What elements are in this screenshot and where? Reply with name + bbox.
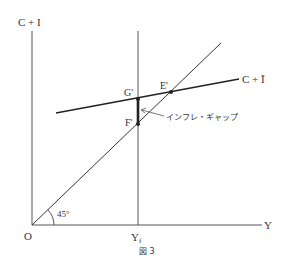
- aggregate-demand-label: C + Ī: [242, 73, 265, 85]
- aggregate-demand-line: [56, 79, 239, 113]
- diagram-canvas: C + I Y O 45° Yf C + Ī G' E' F' インフレ・ギャッ…: [0, 0, 284, 273]
- 45-degree-line: [32, 43, 221, 225]
- angle-label: 45°: [57, 209, 70, 219]
- full-employment-label: Yf: [131, 231, 142, 245]
- point-g-label: G': [124, 87, 133, 98]
- x-axis-label: Y: [264, 219, 272, 231]
- figure-caption: 図 3: [139, 247, 155, 256]
- angle-arc: [48, 210, 54, 225]
- point-e-label: E': [160, 80, 168, 91]
- point-f-label: F': [125, 117, 133, 128]
- point-e: [169, 90, 173, 94]
- y-axis-label: C + I: [18, 16, 41, 28]
- inflation-gap-diagram: C + I Y O 45° Yf C + Ī G' E' F' インフレ・ギャッ…: [0, 0, 284, 273]
- point-f: [136, 122, 140, 126]
- inflation-gap-label: インフレ・ギャップ: [166, 113, 238, 122]
- point-g: [136, 97, 140, 101]
- origin-label: O: [24, 230, 32, 242]
- annotation-leader: [142, 110, 164, 116]
